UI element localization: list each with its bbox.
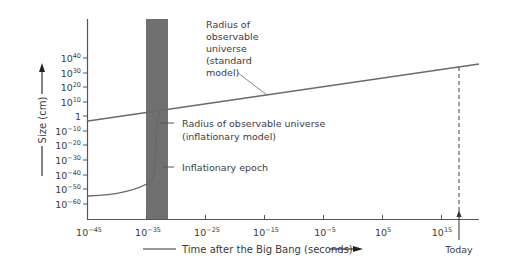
today-arrow-icon	[457, 210, 462, 217]
x-tick-labels: 10−45 10−35 10−25 10−15 10−5 105 1015	[76, 226, 452, 238]
svg-text:10−50: 10−50	[55, 183, 81, 195]
svg-text:1015: 1015	[432, 226, 452, 238]
y-axis-arrow-icon	[39, 63, 45, 72]
svg-text:Radius of observable universe: Radius of observable universe	[182, 118, 326, 129]
svg-text:observable: observable	[206, 31, 259, 42]
svg-text:10−15: 10−15	[253, 226, 279, 238]
today-label: Today	[444, 244, 473, 255]
svg-text:(standard: (standard	[206, 55, 252, 66]
svg-text:10−25: 10−25	[194, 226, 220, 238]
x-axis-title: Time after the Big Bang (seconds)	[143, 244, 363, 255]
x-axis-arrow-icon	[353, 246, 363, 252]
y-axis-title: Size (cm)	[37, 63, 48, 176]
svg-text:Size (cm): Size (cm)	[37, 97, 48, 144]
svg-text:10−45: 10−45	[76, 226, 102, 238]
svg-text:10−35: 10−35	[135, 226, 161, 238]
y-tick-labels: 1040 1030 1020 1010 1 10−10 10−20 10−30 …	[55, 52, 81, 210]
svg-text:1: 1	[75, 111, 81, 122]
inflationary-epoch-label: Inflationary epoch	[182, 162, 268, 173]
svg-text:105: 105	[375, 226, 391, 238]
svg-text:1030: 1030	[61, 67, 81, 79]
svg-text:10−30: 10−30	[55, 154, 81, 166]
svg-text:10−10: 10−10	[55, 125, 81, 137]
svg-text:10−5: 10−5	[314, 226, 336, 238]
svg-text:10−40: 10−40	[55, 169, 81, 181]
svg-text:model): model)	[206, 67, 239, 78]
svg-text:(inflationary model): (inflationary model)	[182, 131, 276, 142]
chart: 1040 1030 1020 1010 1 10−10 10−20 10−30 …	[0, 0, 505, 268]
inflationary-model-label: Radius of observable universe (inflation…	[182, 118, 326, 142]
standard-model-label: Radius of observable universe (standard …	[206, 19, 259, 78]
svg-text:Radius of: Radius of	[206, 19, 251, 30]
standard-model-leader	[238, 73, 267, 95]
svg-text:1040: 1040	[61, 52, 81, 64]
svg-text:universe: universe	[206, 43, 247, 54]
svg-text:1010: 1010	[61, 96, 81, 108]
svg-text:10−20: 10−20	[55, 139, 81, 151]
svg-text:1020: 1020	[61, 81, 81, 93]
svg-text:Time after the Big Bang (secon: Time after the Big Bang (seconds)	[181, 244, 353, 255]
svg-text:10−60: 10−60	[55, 198, 81, 210]
